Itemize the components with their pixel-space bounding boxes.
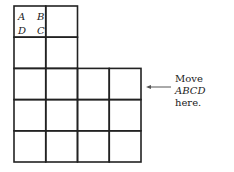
grid-cell (109, 100, 141, 131)
note-line2: here. (175, 97, 201, 108)
grid-cell (78, 100, 110, 131)
grid-cell (46, 6, 78, 37)
label-a: A (17, 11, 25, 22)
move-note: Move ABCD here. (175, 73, 234, 109)
grid-cell (46, 100, 78, 131)
label-b: B (36, 11, 44, 22)
grid-cell (78, 68, 110, 99)
grid-cell (46, 131, 78, 162)
label-c: C (37, 25, 45, 36)
grid-cell (46, 68, 78, 99)
grid-cell (109, 68, 141, 99)
grid-cell (14, 68, 46, 99)
grid-cell (14, 37, 46, 68)
note-shape: ABCD (175, 85, 205, 96)
grid-cell (78, 131, 110, 162)
note-prefix: Move (175, 73, 203, 84)
grid-cell (14, 100, 46, 131)
label-d: D (17, 25, 26, 36)
left-arrow-icon (146, 85, 171, 89)
grid-cell (14, 131, 46, 162)
grid-cell (46, 37, 78, 68)
grid-cell (109, 131, 141, 162)
